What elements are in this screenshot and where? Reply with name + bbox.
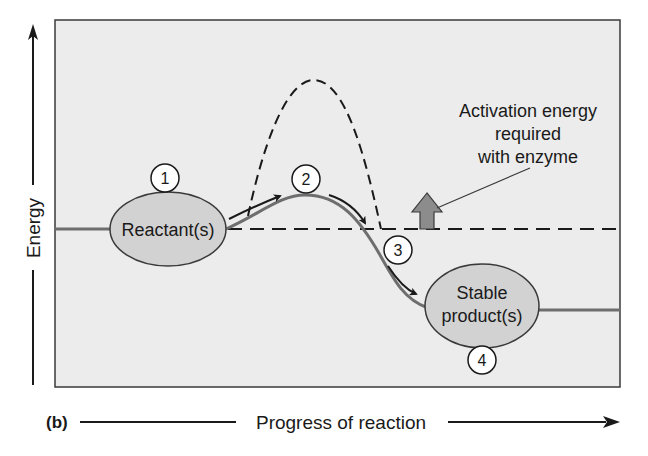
step-number: 2 — [302, 171, 311, 188]
product-state: Stable product(s) — [425, 264, 539, 348]
panel-label: (b) — [46, 413, 68, 432]
x-axis: (b) Progress of reaction — [46, 412, 620, 433]
step-marker-3: 3 — [384, 236, 412, 264]
step-marker-4: 4 — [468, 346, 496, 374]
step-marker-1: 1 — [151, 164, 179, 192]
x-axis-label: Progress of reaction — [256, 412, 426, 433]
y-axis-label: Energy — [23, 197, 44, 258]
step-number: 1 — [161, 170, 170, 187]
reactant-label: Reactant(s) — [121, 220, 214, 240]
step-number: 4 — [478, 352, 487, 369]
annotation-line-2: required — [495, 124, 561, 144]
step-marker-2: 2 — [292, 165, 320, 193]
reactant-state: Reactant(s) — [110, 192, 226, 266]
annotation-line-1: Activation energy — [459, 101, 597, 121]
y-axis: Energy — [23, 24, 44, 385]
energy-diagram: Energy (b) Progress of reaction Reactant… — [0, 0, 648, 456]
product-label-line1: Stable — [456, 283, 507, 303]
step-number: 3 — [394, 242, 403, 259]
product-label-line2: product(s) — [441, 306, 522, 326]
annotation-line-3: with enzyme — [477, 147, 578, 167]
